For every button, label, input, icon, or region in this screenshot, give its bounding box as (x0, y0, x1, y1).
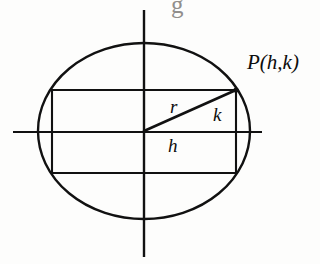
scan-artifact-top-glyph: g (171, 0, 184, 19)
radius-label: r (170, 97, 177, 116)
horizontal-leg-label: h (168, 136, 178, 155)
circle-diagram-svg (0, 0, 320, 264)
figure-canvas: g P(h,k) r k h (0, 0, 320, 264)
radius-segment (144, 90, 236, 131)
point-p-label: P(h,k) (247, 52, 299, 73)
vertical-leg-label: k (213, 105, 221, 124)
point-p-marker (233, 87, 238, 92)
